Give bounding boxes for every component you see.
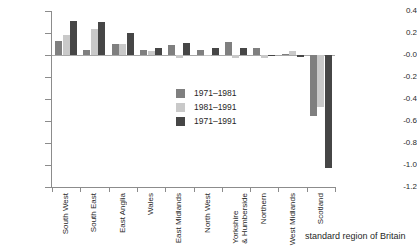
- bar: [112, 44, 119, 55]
- bar: [253, 48, 260, 55]
- bar: [212, 48, 219, 55]
- bar: [317, 55, 324, 107]
- bar: [268, 55, 275, 56]
- x-tick-mark: [165, 187, 166, 192]
- bar: [98, 22, 105, 55]
- bar: [168, 45, 175, 55]
- bar: [232, 55, 239, 58]
- legend-swatch-icon: [176, 103, 185, 112]
- x-tick-label: Scotland: [316, 193, 325, 224]
- bar: [297, 55, 304, 57]
- x-tick-mark: [80, 187, 81, 192]
- x-tick-mark: [250, 187, 251, 192]
- bar: [204, 55, 211, 56]
- bar: [55, 41, 62, 55]
- bar: [140, 50, 147, 56]
- bar: [183, 43, 190, 55]
- x-axis-title: standard region of Britain: [305, 231, 406, 241]
- legend-label: 1981–1991: [194, 102, 237, 113]
- bar: [148, 51, 155, 55]
- bar: [289, 51, 296, 55]
- bar: [176, 55, 183, 58]
- x-tick-label: Northern: [259, 193, 268, 224]
- bar: [91, 29, 98, 55]
- x-tick-label: East Midlands: [174, 193, 183, 243]
- bar: [197, 50, 204, 56]
- x-tick-label: South West: [61, 193, 70, 234]
- bar: [119, 44, 126, 55]
- x-tick-mark: [278, 187, 279, 192]
- x-tick-label: North West: [203, 193, 212, 233]
- x-tick-mark: [335, 187, 336, 192]
- bar: [83, 50, 90, 56]
- legend-label: 1971–1991: [194, 116, 237, 127]
- bar: [282, 54, 289, 55]
- bar: [325, 55, 332, 168]
- x-tick-label: West Midlands: [288, 193, 297, 245]
- x-tick-label: South East: [89, 193, 98, 232]
- x-tick-mark: [109, 187, 110, 192]
- x-tick-label: East Anglia: [118, 193, 127, 233]
- bar: [127, 33, 134, 55]
- legend-swatch-icon: [176, 117, 185, 126]
- bar-chart: 0.40.2-0.0-0.2-0.4-0.6-0.8-1.0-1.2 South…: [0, 0, 417, 250]
- bar: [240, 48, 247, 55]
- x-tick-mark: [52, 187, 53, 192]
- bar: [225, 42, 232, 55]
- x-tick-mark: [137, 187, 138, 192]
- x-tick-mark: [222, 187, 223, 192]
- legend-label: 1971–1981: [194, 88, 237, 99]
- x-tick-mark: [307, 187, 308, 192]
- bar: [310, 55, 317, 116]
- bar: [261, 55, 268, 58]
- x-tick-label: Wales: [146, 193, 155, 215]
- legend-swatch-icon: [176, 89, 185, 98]
- bar: [63, 35, 70, 55]
- x-tick-label: Yorkshire & Humberside: [231, 193, 249, 244]
- bar: [155, 48, 162, 55]
- bar: [70, 21, 77, 55]
- x-tick-mark: [194, 187, 195, 192]
